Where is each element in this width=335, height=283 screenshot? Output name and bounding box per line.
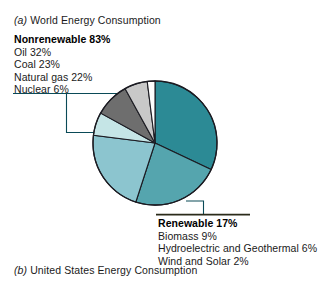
caption-b-text: United States Energy Consumption bbox=[27, 264, 197, 276]
figure-caption-b: (b) United States Energy Consumption bbox=[14, 264, 197, 277]
pie-chart bbox=[0, 0, 335, 283]
caption-b-label: (b) bbox=[14, 264, 27, 276]
figure-panel-a: (a) World Energy Consumption Nonrenewabl… bbox=[0, 0, 335, 283]
